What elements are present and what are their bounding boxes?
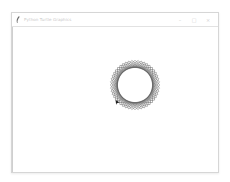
feather-icon bbox=[15, 16, 20, 23]
square-stroke bbox=[112, 62, 158, 108]
close-button[interactable]: × bbox=[201, 13, 215, 26]
turtle-canvas[interactable] bbox=[12, 27, 218, 172]
square-stroke bbox=[115, 65, 154, 104]
maximize-button[interactable]: □ bbox=[187, 13, 201, 26]
spirograph-drawing bbox=[13, 27, 219, 173]
caption-text bbox=[70, 175, 160, 180]
title-bar[interactable]: Python Turtle Graphics – □ × bbox=[12, 13, 218, 27]
square-stroke bbox=[115, 65, 154, 104]
square-stroke bbox=[114, 64, 157, 107]
square-stroke bbox=[112, 62, 158, 108]
window-title: Python Turtle Graphics bbox=[24, 17, 71, 22]
square-stroke bbox=[114, 64, 157, 107]
minimize-button[interactable]: – bbox=[173, 13, 187, 26]
turtle-window: Python Turtle Graphics – □ × bbox=[11, 12, 219, 173]
window-controls: – □ × bbox=[173, 13, 215, 26]
